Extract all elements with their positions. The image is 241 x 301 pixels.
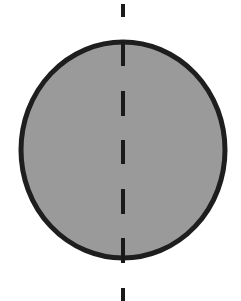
axis-dash bbox=[121, 288, 125, 301]
axis-dash bbox=[121, 189, 125, 214]
diagram-canvas bbox=[0, 0, 241, 301]
axis-dash bbox=[121, 42, 125, 66]
axis-dash bbox=[121, 238, 125, 263]
ellipse-axis-diagram bbox=[0, 0, 241, 301]
axis-dash bbox=[121, 140, 125, 164]
axis-dash bbox=[121, 4, 125, 17]
dashed-vertical-axis bbox=[121, 4, 125, 301]
axis-dash bbox=[121, 91, 125, 116]
